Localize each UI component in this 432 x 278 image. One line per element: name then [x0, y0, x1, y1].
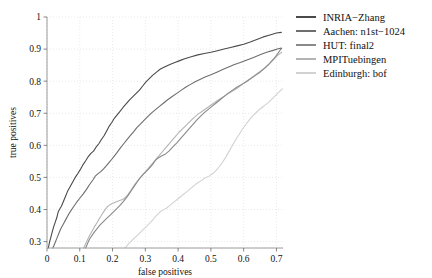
x-tick-label: 0.5: [205, 254, 217, 264]
y-tick-label: 0.9: [29, 44, 41, 54]
legend-item-4: Edinburgh: bof: [296, 66, 432, 80]
legend-line-swatch-3: [296, 58, 316, 60]
legend-item-0: INRIA−Zhang: [296, 10, 432, 24]
roc-curve-plot: 00.10.20.30.40.50.60.70.30.40.50.60.70.8…: [0, 0, 300, 278]
x-tick-label: 0.1: [74, 254, 86, 264]
legend-label-2: HUT: final2: [323, 40, 374, 51]
roc-curve-series-2: [86, 48, 282, 248]
roc-curve-series-3: [84, 52, 282, 248]
y-tick-label: 0.3: [29, 237, 41, 247]
legend-item-2: HUT: final2: [296, 38, 432, 52]
legend-label-3: MPITuebingen: [323, 54, 386, 65]
legend-line-swatch-0: [296, 16, 316, 18]
legend-label-1: Aachen: n1st−1024: [323, 26, 405, 37]
chart-legend: INRIA−Zhang Aachen: n1st−1024 HUT: final…: [296, 10, 432, 80]
y-tick-label: 0.6: [29, 141, 41, 151]
x-tick-label: 0.2: [107, 254, 119, 264]
roc-curve-series-0: [48, 32, 281, 248]
y-tick-label: 0.4: [29, 205, 41, 215]
y-tick-label: 0.5: [29, 173, 41, 183]
legend-line-swatch-4: [296, 72, 316, 74]
x-axis-title: false positives: [138, 267, 192, 277]
legend-line-swatch-1: [296, 30, 316, 32]
x-tick-label: 0: [45, 254, 50, 264]
legend-label-4: Edinburgh: bof: [323, 68, 387, 79]
x-tick-label: 0.6: [238, 254, 250, 264]
legend-item-3: MPITuebingen: [296, 52, 432, 66]
legend-line-swatch-2: [296, 44, 316, 46]
x-tick-label: 0.4: [172, 254, 184, 264]
legend-label-0: INRIA−Zhang: [323, 12, 385, 23]
plot-area: 00.10.20.30.40.50.60.70.30.40.50.60.70.8…: [0, 0, 300, 278]
y-tick-label: 0.7: [29, 109, 41, 119]
roc-curve-series-1: [53, 48, 281, 248]
x-tick-label: 0.3: [139, 254, 151, 264]
x-tick-label: 0.7: [271, 254, 283, 264]
legend-item-1: Aachen: n1st−1024: [296, 24, 432, 38]
y-axis-title: true positives: [8, 107, 18, 158]
roc-chart-figure: 00.10.20.30.40.50.60.70.30.40.50.60.70.8…: [0, 0, 432, 278]
y-tick-label: 1: [36, 12, 41, 22]
y-tick-label: 0.8: [29, 77, 41, 87]
